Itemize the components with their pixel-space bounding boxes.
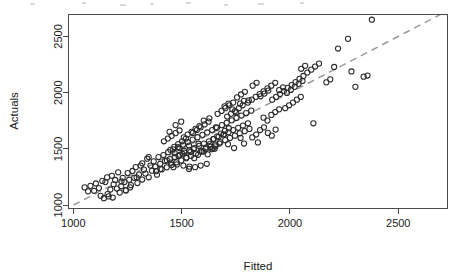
scatter-point: [261, 125, 266, 130]
scatter-point: [140, 177, 145, 182]
scatter-point: [204, 161, 209, 166]
scatter-point: [265, 118, 270, 123]
scatter-point: [88, 183, 93, 188]
scatter-point: [231, 100, 236, 105]
scatter-point: [345, 36, 350, 41]
y-axis: 1000150020002500: [52, 24, 69, 217]
scatter-point: [116, 170, 121, 175]
scatter-point: [353, 84, 358, 89]
scatter-point: [173, 122, 178, 127]
scatter-point: [133, 165, 138, 170]
scan-artifact-specks: [30, 2, 304, 6]
scatter-point: [241, 141, 246, 146]
scatter-point: [245, 121, 250, 126]
scatter-point: [205, 152, 210, 157]
x-axis: 1000150020002500: [61, 208, 410, 229]
scatter-point: [156, 154, 161, 159]
scatter-point: [195, 135, 200, 140]
scatter-point: [332, 64, 337, 69]
scatter-point: [135, 180, 140, 185]
scatter-point: [303, 63, 308, 68]
scatter-point: [242, 89, 247, 94]
x-tick-label: 1500: [169, 217, 193, 229]
y-tick-label: 2500: [52, 24, 64, 48]
scatter-point: [231, 145, 236, 150]
scatter-point: [349, 69, 354, 74]
scatter-point: [254, 80, 259, 85]
scatter-point: [227, 135, 232, 140]
scatter-point: [316, 61, 321, 66]
x-tick-label: 2500: [386, 217, 410, 229]
scatter-point: [269, 133, 274, 138]
identity-reference-line: [73, 11, 447, 205]
scatter-point: [328, 77, 333, 82]
scatter-point: [255, 140, 260, 145]
scatter-point: [154, 172, 159, 177]
scatter-point: [197, 124, 202, 129]
scatter-point: [254, 132, 259, 137]
scatter-point: [247, 126, 252, 131]
scatter-point: [224, 120, 229, 125]
scatter-point: [240, 123, 245, 128]
scatter-point: [369, 17, 374, 22]
scatter-point: [198, 163, 203, 168]
scatter-point: [225, 142, 230, 147]
scatter-point: [273, 127, 278, 132]
scatter-point: [127, 177, 132, 182]
scatter-plot-figure: 1000150020002500 1000150020002500 Fitted…: [0, 0, 462, 279]
scatter-point: [117, 190, 122, 195]
x-axis-title: Fitted: [244, 260, 273, 272]
y-axis-title: Actuals: [8, 92, 20, 130]
y-tick-label: 1000: [52, 193, 64, 217]
scatter-point: [273, 80, 278, 85]
scatter-point: [146, 175, 151, 180]
scatter-point: [234, 110, 239, 115]
scatter-point: [277, 107, 282, 112]
scatter-point: [249, 108, 254, 113]
scatter-point: [85, 189, 90, 194]
y-tick-label: 1500: [52, 137, 64, 161]
scatter-points-group: [82, 17, 374, 201]
scatter-point: [311, 121, 316, 126]
scatter-point: [207, 116, 212, 121]
scatter-point: [205, 130, 210, 135]
x-tick-label: 2000: [278, 217, 302, 229]
x-tick-label: 1000: [61, 217, 85, 229]
scatter-point: [335, 46, 340, 51]
scatter-point: [177, 128, 182, 133]
y-tick-label: 2000: [52, 80, 64, 104]
fitted-vs-actuals-scatter-chart: 1000150020002500 1000150020002500 Fitted…: [0, 0, 462, 279]
scatter-point: [181, 163, 186, 168]
scatter-point: [96, 185, 101, 190]
scatter-point: [179, 119, 184, 124]
scatter-point: [192, 165, 197, 170]
scatter-point: [298, 94, 303, 99]
